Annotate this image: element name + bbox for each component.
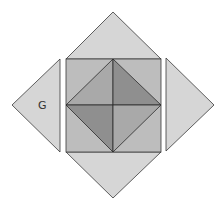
top-triangle	[66, 12, 161, 59]
bottom-triangle	[66, 152, 161, 198]
geometric-diagram: G	[0, 0, 224, 202]
left-triangle	[12, 59, 60, 152]
label-g: G	[38, 99, 47, 112]
right-triangle	[166, 58, 214, 151]
